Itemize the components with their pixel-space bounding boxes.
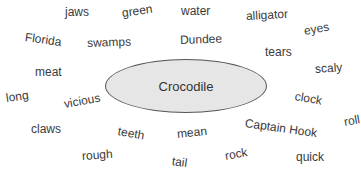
word-water: water [181, 5, 210, 17]
word-rock: rock [224, 146, 248, 162]
word-long: long [5, 89, 29, 104]
center-label: Crocodile [159, 79, 214, 94]
word-quick: quick [296, 151, 324, 163]
word-meat: meat [35, 66, 62, 78]
center-ellipse: Crocodile [105, 59, 267, 113]
word-captain-hook: Captain Hook [244, 117, 318, 139]
word-claws: claws [31, 123, 61, 135]
word-swamps: swamps [87, 35, 131, 49]
word-alligator: alligator [246, 8, 289, 22]
word-cloud-diagram: Crocodile jawsgreenwateralligatoreyesFlo… [0, 0, 361, 184]
word-eyes: eyes [303, 21, 330, 37]
word-florida: Florida [24, 31, 62, 48]
word-clock: clock [294, 90, 323, 107]
word-jaws: jaws [65, 6, 89, 18]
word-mean: mean [176, 125, 207, 140]
word-green: green [121, 3, 153, 19]
word-roll: roll [343, 113, 361, 128]
word-dundee: Dundee [180, 33, 222, 46]
word-teeth: teeth [117, 125, 145, 141]
word-scaly: scaly [315, 61, 343, 75]
word-vicious: vicious [63, 92, 101, 110]
word-rough: rough [82, 148, 113, 162]
word-tears: tears [265, 46, 292, 58]
word-tail: tail [171, 155, 188, 169]
